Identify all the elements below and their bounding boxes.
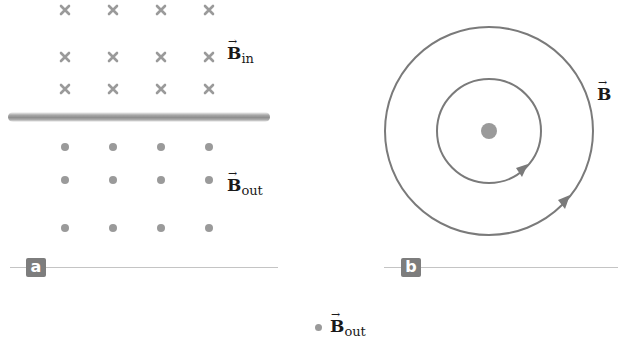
vector-arrow-icon: → <box>228 168 237 179</box>
b-field-label: →B <box>597 86 611 103</box>
circular-field-lines <box>370 0 625 250</box>
vector-arrow-icon: → <box>228 36 237 47</box>
subscript-in: in <box>241 51 254 66</box>
dot-marker <box>157 143 165 151</box>
b-out-label: →Bout <box>227 177 263 197</box>
dot-marker <box>109 176 117 184</box>
legend-dot-marker <box>315 324 322 331</box>
dot-marker <box>61 143 69 151</box>
dot-marker <box>109 224 117 232</box>
subscript-out: out <box>344 324 365 338</box>
legend-b-out-label: →Bout <box>330 318 366 338</box>
direction-arrow-icons <box>516 164 570 209</box>
dot-marker <box>205 143 213 151</box>
dot-marker <box>157 224 165 232</box>
panel-a-badge: a <box>26 258 46 277</box>
dot-marker <box>109 143 117 151</box>
subscript-out: out <box>241 183 262 198</box>
wire-cross-section-dot <box>481 123 497 139</box>
panel-b-badge: b <box>401 258 421 277</box>
dot-marker <box>61 224 69 232</box>
vector-arrow-icon: → <box>598 77 607 88</box>
dot-marker <box>61 176 69 184</box>
dot-marker <box>157 176 165 184</box>
panel-a-baseline <box>10 267 278 268</box>
vector-arrow-icon: → <box>331 309 340 320</box>
current-wire <box>8 112 270 122</box>
dot-marker <box>205 224 213 232</box>
b-in-label: →Bin <box>227 45 254 65</box>
dot-marker <box>205 176 213 184</box>
